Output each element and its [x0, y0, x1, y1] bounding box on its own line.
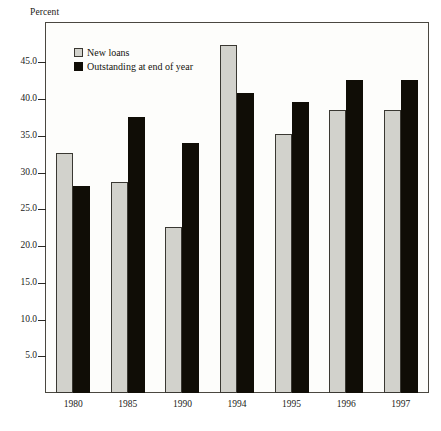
legend-label: Outstanding at end of year: [87, 61, 193, 72]
y-axis-tick: [38, 173, 46, 174]
legend-item-outstanding: Outstanding at end of year: [74, 60, 193, 73]
bar-1994-new-loans: [220, 45, 237, 393]
y-axis-label: 35.0: [5, 130, 37, 140]
bar-1996-outstanding: [346, 80, 363, 393]
bar-1980-new-loans: [56, 153, 73, 393]
y-axis-label: 5.0: [5, 350, 37, 360]
y-axis-tick: [38, 356, 46, 357]
y-axis-label: 40.0: [5, 93, 37, 103]
x-axis-label-1997: 1997: [381, 399, 421, 409]
chart-legend: New loansOutstanding at end of year: [74, 46, 193, 74]
x-axis-label-1980: 1980: [53, 399, 93, 409]
bar-1995-new-loans: [275, 134, 292, 393]
legend-swatch-icon: [74, 48, 83, 57]
y-axis-label: 25.0: [5, 203, 37, 213]
y-axis-tick: [38, 62, 46, 63]
x-axis-label-1996: 1996: [326, 399, 366, 409]
bar-1995-outstanding: [292, 102, 309, 393]
y-axis-label: 10.0: [5, 314, 37, 324]
y-axis-label: 20.0: [5, 240, 37, 250]
bar-1997-outstanding: [401, 80, 418, 393]
y-axis-tick: [38, 209, 46, 210]
x-axis-label-1990: 1990: [162, 399, 202, 409]
x-axis-label-1995: 1995: [272, 399, 312, 409]
bar-1985-new-loans: [111, 182, 128, 393]
y-axis-label: 45.0: [5, 56, 37, 66]
plot-area: [46, 23, 428, 393]
x-axis-label-1994: 1994: [217, 399, 257, 409]
bar-1994-outstanding: [237, 93, 254, 393]
y-axis-tick: [38, 99, 46, 100]
bar-1985-outstanding: [128, 117, 145, 393]
bar-1996-new-loans: [329, 110, 346, 393]
y-axis-label: 30.0: [5, 167, 37, 177]
y-axis-label: 15.0: [5, 277, 37, 287]
bar-1980-outstanding: [73, 186, 90, 393]
y-axis-tick: [38, 246, 46, 247]
bar-chart: Percent 5.010.015.020.025.030.035.040.04…: [0, 0, 441, 431]
y-axis-tick: [38, 320, 46, 321]
y-axis-tick: [38, 283, 46, 284]
bar-1990-new-loans: [165, 227, 182, 393]
legend-item-new-loans: New loans: [74, 46, 193, 59]
legend-label: New loans: [87, 47, 130, 58]
bar-1990-outstanding: [182, 143, 199, 393]
legend-swatch-icon: [74, 62, 83, 71]
y-axis-title: Percent: [30, 7, 59, 17]
x-axis-label-1985: 1985: [108, 399, 148, 409]
y-axis-tick: [38, 136, 46, 137]
bar-1997-new-loans: [384, 110, 401, 393]
